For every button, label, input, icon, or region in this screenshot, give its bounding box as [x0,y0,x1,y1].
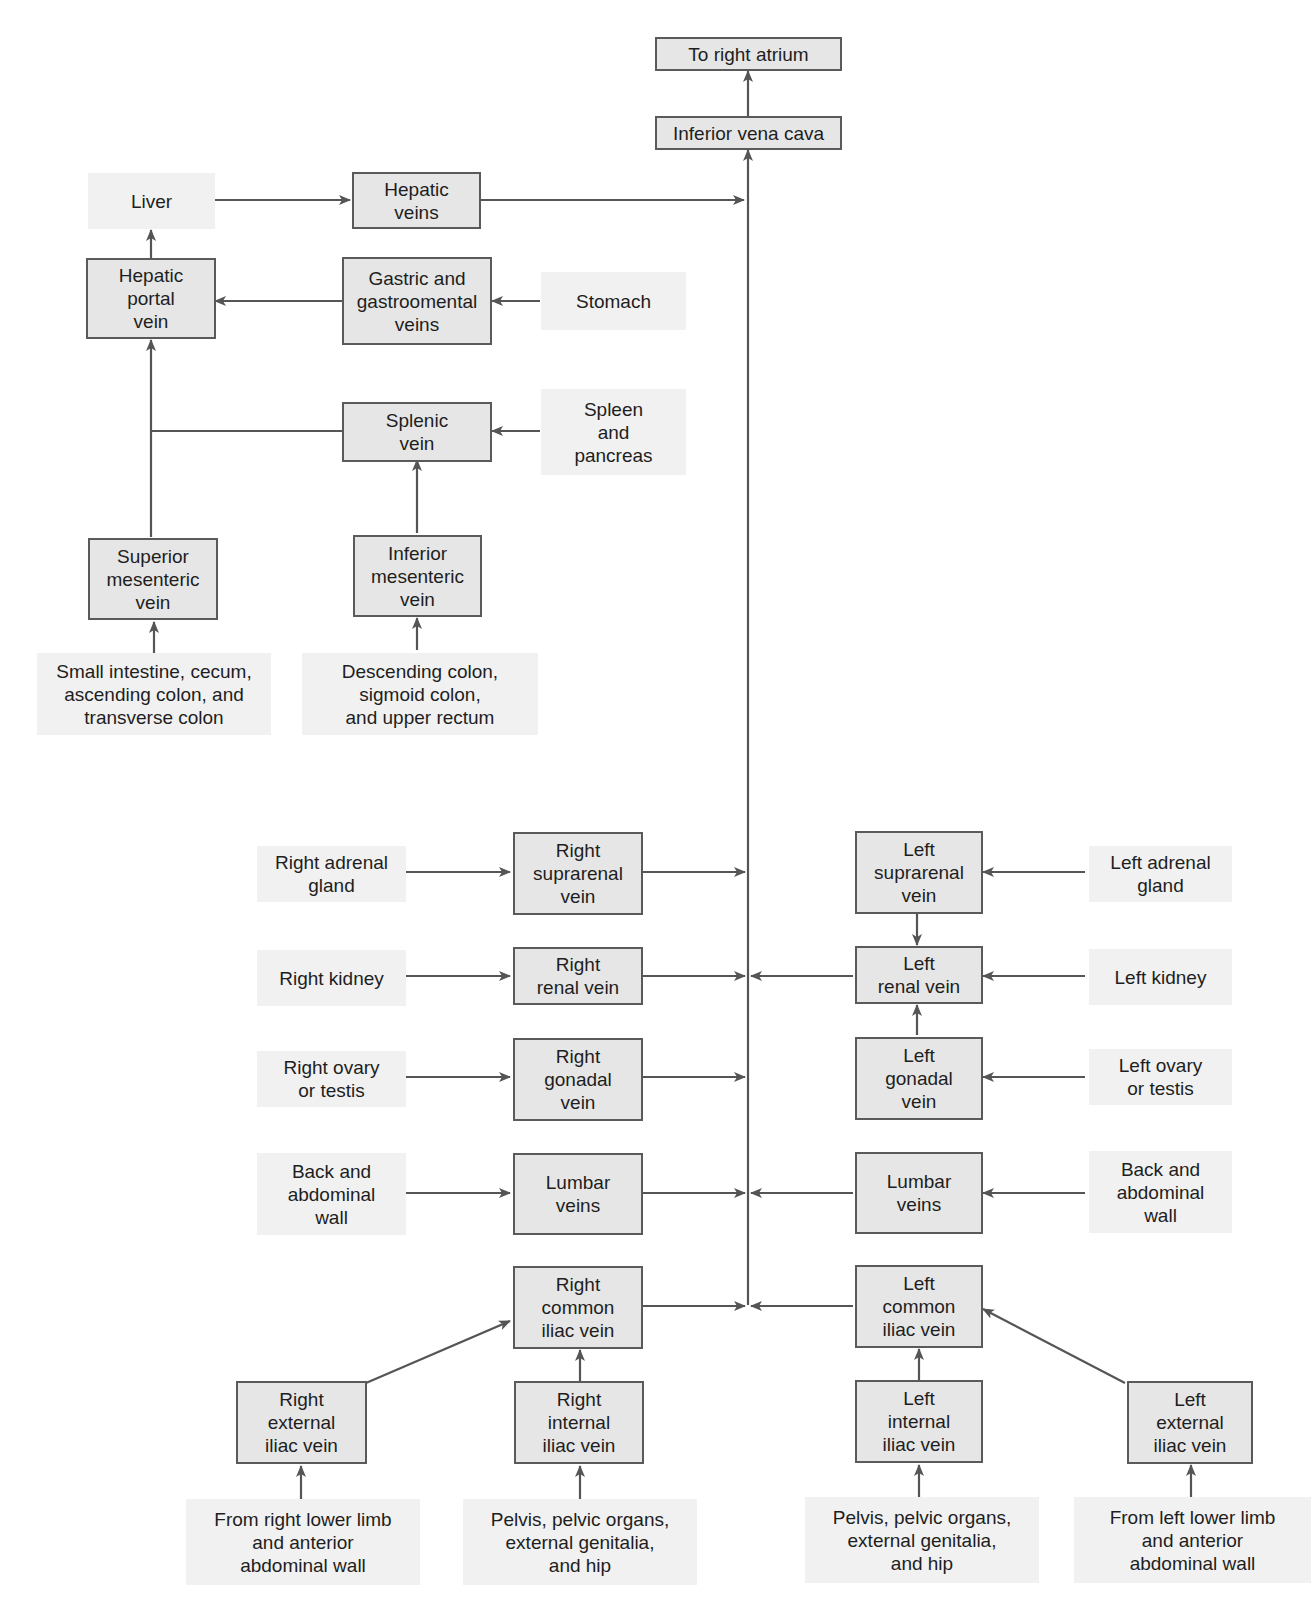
right-ovary-testis-box: Right ovary or testis [257,1051,406,1107]
left-lower-limb-box: From left lower limb and anterior abdomi… [1074,1497,1311,1583]
left-renal-vein-box: Left renal vein [855,946,983,1004]
small-intestine-box: Small intestine, cecum, ascending colon,… [37,653,271,735]
left-adrenal-gland-box: Left adrenal gland [1089,846,1232,902]
spleen-pancreas-box: Spleen and pancreas [541,389,686,475]
hepatic-veins-box: Hepatic veins [352,172,481,229]
left-lumbar-veins-box: Lumbar veins [855,1152,983,1234]
inferior-mesenteric-vein-box: Inferior mesenteric vein [353,535,482,617]
right-gonadal-vein-box: Right gonadal vein [513,1038,643,1121]
hepatic-portal-vein-box: Hepatic portal vein [86,258,216,339]
splenic-vein-box: Splenic vein [342,402,492,462]
inferior-vena-cava-box: Inferior vena cava [655,116,842,150]
superior-mesenteric-vein-box: Superior mesenteric vein [88,538,218,620]
descending-colon-box: Descending colon, sigmoid colon, and upp… [302,653,538,735]
liver-box: Liver [88,173,215,229]
gastric-gastroomental-veins-box: Gastric and gastroomental veins [342,257,492,345]
stomach-box: Stomach [541,272,686,330]
to-right-atrium-box: To right atrium [655,37,842,71]
right-suprarenal-vein-box: Right suprarenal vein [513,832,643,915]
left-gonadal-vein-box: Left gonadal vein [855,1037,983,1120]
right-back-abdominal-wall-box: Back and abdominal wall [257,1153,406,1235]
right-internal-iliac-vein-box: Right internal iliac vein [514,1381,644,1464]
left-back-abdominal-wall-box: Back and abdominal wall [1089,1151,1232,1233]
right-lower-limb-box: From right lower limb and anterior abdom… [186,1499,420,1585]
right-pelvis-box: Pelvis, pelvic organs, external genitali… [463,1499,697,1585]
left-suprarenal-vein-box: Left suprarenal vein [855,831,983,914]
left-external-iliac-vein-box: Left external iliac vein [1127,1381,1253,1464]
right-kidney-box: Right kidney [257,950,406,1006]
right-common-iliac-vein-box: Right common iliac vein [513,1266,643,1349]
right-external-iliac-vein-box: Right external iliac vein [236,1381,367,1464]
right-adrenal-gland-box: Right adrenal gland [257,846,406,902]
right-lumbar-veins-box: Lumbar veins [513,1153,643,1235]
connector-lines [0,0,1311,1612]
right-renal-vein-box: Right renal vein [513,947,643,1005]
left-kidney-box: Left kidney [1089,949,1232,1005]
left-internal-iliac-vein-box: Left internal iliac vein [855,1380,983,1463]
left-pelvis-box: Pelvis, pelvic organs, external genitali… [805,1497,1039,1583]
vein-flow-diagram: To right atrium Inferior vena cava Liver… [0,0,1311,1612]
left-ovary-testis-box: Left ovary or testis [1089,1049,1232,1105]
left-common-iliac-vein-box: Left common iliac vein [855,1265,983,1348]
